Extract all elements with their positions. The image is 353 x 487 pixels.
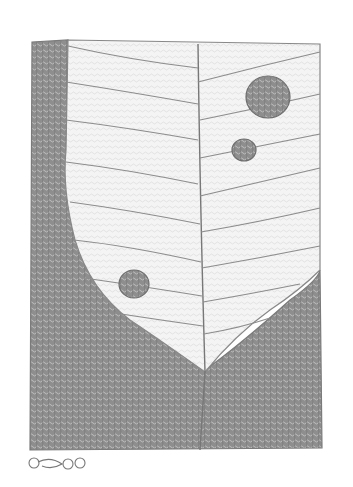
- spot-lower: [119, 270, 149, 298]
- spot-large: [246, 76, 290, 118]
- signature: [29, 458, 85, 469]
- spot-small: [232, 139, 256, 161]
- pencil-drawing: [0, 0, 353, 487]
